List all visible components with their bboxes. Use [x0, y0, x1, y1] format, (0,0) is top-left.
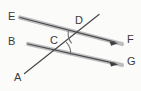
geometry-figure: E D F B C G A — [0, 0, 141, 91]
point-label-E: E — [8, 11, 15, 22]
point-label-G: G — [127, 56, 136, 67]
point-label-B: B — [8, 36, 15, 47]
segment-E-F — [20, 18, 115, 43]
point-label-D: D — [75, 15, 83, 26]
point-label-C: C — [50, 35, 58, 46]
point-label-F: F — [127, 34, 134, 45]
parallel-line-highlights — [20, 18, 122, 66]
point-label-A: A — [14, 72, 21, 83]
